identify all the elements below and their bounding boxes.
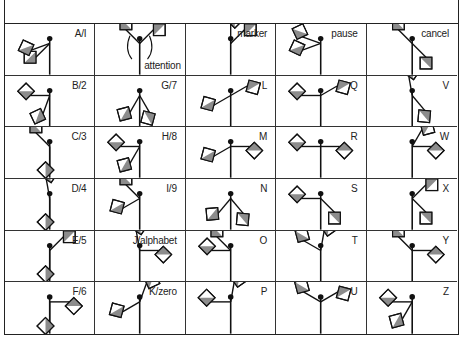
semaphore-cell-l: L [186, 76, 276, 128]
semaphore-label: X [443, 183, 449, 194]
semaphore-label: A/I [75, 28, 87, 39]
semaphore-chart-frame: A/IattentionmarkerpausecancelB/2G/7LQVC/… [4, 0, 459, 335]
semaphore-cell-pause: pause [276, 24, 366, 76]
semaphore-label: P [261, 286, 267, 297]
semaphore-cell-p: P [186, 282, 276, 334]
semaphore-label: D/4 [71, 183, 86, 194]
semaphore-cell-marker: marker [186, 24, 276, 76]
semaphore-label: Z [443, 286, 449, 297]
semaphore-cell-s: S [276, 179, 366, 231]
semaphore-cell-a-i: A/I [5, 24, 95, 76]
semaphore-label: O [260, 235, 268, 246]
semaphore-label: G/7 [161, 80, 177, 91]
semaphore-label: attention [144, 60, 181, 71]
semaphore-cell-h-8: H/8 [95, 127, 185, 179]
semaphore-cell-v: V [367, 76, 457, 128]
semaphore-label: H/8 [162, 131, 177, 142]
semaphore-cell-j-alphabet: J/alphabet [95, 231, 185, 283]
semaphore-label: T [352, 235, 358, 246]
semaphore-label: Y [443, 235, 449, 246]
semaphore-label: U [351, 286, 358, 297]
semaphore-cell-f-6: F/6 [5, 282, 95, 334]
semaphore-label: J/alphabet [133, 235, 177, 246]
semaphore-cell-u: U [276, 282, 366, 334]
semaphore-cell-w: W [367, 127, 457, 179]
semaphore-label: N [260, 183, 267, 194]
semaphore-cell-attention: attention [95, 24, 185, 76]
semaphore-label: Q [350, 80, 358, 91]
chart-header [5, 0, 458, 24]
semaphore-label: I/9 [166, 183, 177, 194]
semaphore-cell-t: T [276, 231, 366, 283]
semaphore-grid: A/IattentionmarkerpausecancelB/2G/7LQVC/… [5, 24, 457, 334]
semaphore-label: S [351, 183, 357, 194]
semaphore-label: B/2 [72, 80, 86, 91]
semaphore-cell-r: R [276, 127, 366, 179]
semaphore-cell-q: Q [276, 76, 366, 128]
semaphore-label: cancel [421, 28, 449, 39]
semaphore-cell-c-3: C/3 [5, 127, 95, 179]
semaphore-cell-o: O [186, 231, 276, 283]
semaphore-label: F/6 [73, 286, 87, 297]
semaphore-cell-m: M [186, 127, 276, 179]
semaphore-label: pause [331, 28, 357, 39]
semaphore-label: W [440, 131, 449, 142]
semaphore-cell-d-4: D/4 [5, 179, 95, 231]
semaphore-cell-y: Y [367, 231, 457, 283]
semaphore-cell-e-5: E/5 [5, 231, 95, 283]
semaphore-cell-b-2: B/2 [5, 76, 95, 128]
semaphore-label: L [262, 80, 267, 91]
semaphore-cell-z: Z [367, 282, 457, 334]
semaphore-cell-g-7: G/7 [95, 76, 185, 128]
semaphore-cell-k-zero: K/zero [95, 282, 185, 334]
semaphore-label: C/3 [71, 131, 86, 142]
semaphore-label: K/zero [149, 286, 177, 297]
semaphore-label: E/5 [72, 235, 86, 246]
semaphore-cell-cancel: cancel [367, 24, 457, 76]
semaphore-cell-n: N [186, 179, 276, 231]
semaphore-label: R [351, 131, 358, 142]
semaphore-label: M [259, 131, 267, 142]
semaphore-label: V [443, 80, 449, 91]
semaphore-cell-x: X [367, 179, 457, 231]
semaphore-cell-i-9: I/9 [95, 179, 185, 231]
semaphore-label: marker [237, 28, 267, 39]
